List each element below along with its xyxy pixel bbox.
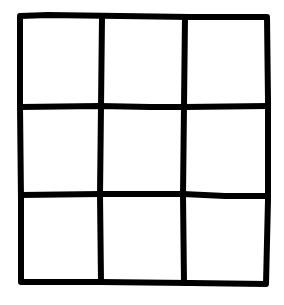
horizontal-line-2 — [21, 194, 268, 196]
vertical-line-1 — [100, 17, 102, 282]
vertical-line-2 — [183, 17, 185, 283]
grid-cell-r3c3 — [188, 199, 265, 279]
grid-cell-r1c1 — [24, 20, 98, 103]
grid-cell-r2c3 — [188, 110, 265, 191]
grid-cell-r1c2 — [105, 20, 181, 103]
grid-cell-r3c2 — [105, 199, 181, 279]
horizontal-line-1 — [21, 106, 268, 107]
grid-cell-r3c1 — [24, 199, 98, 279]
grid-cell-r2c1 — [24, 110, 98, 191]
grid-cell-r1c3 — [188, 20, 265, 103]
grid-cell-r2c2 — [105, 110, 181, 191]
